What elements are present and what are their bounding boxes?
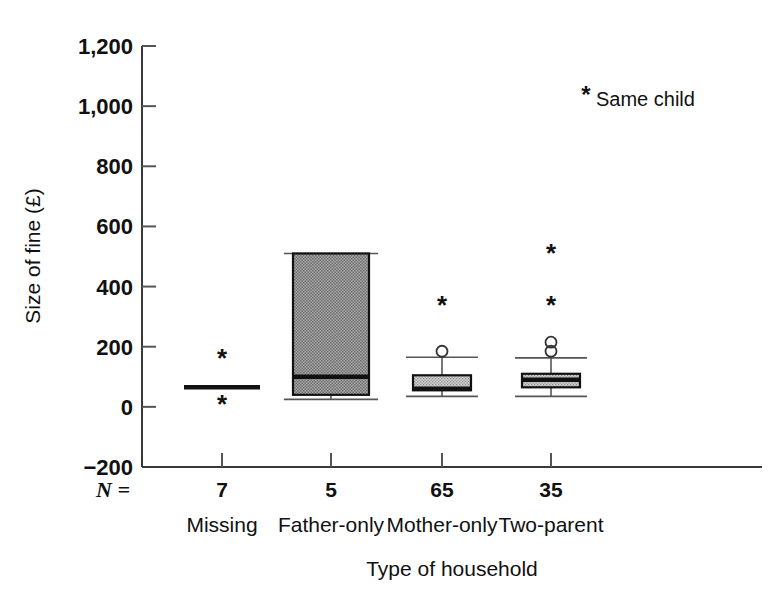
n-value-label: 7 <box>216 478 228 501</box>
n-row-label: N = <box>95 477 130 502</box>
legend-label: Same child <box>596 88 695 110</box>
y-tick-label: 1,000 <box>78 94 133 119</box>
boxplot-figure: 1,2001,0008006004002000−200 ***** 7Missi… <box>0 0 769 610</box>
n-value-label: 35 <box>539 478 563 501</box>
box-rect <box>293 253 369 394</box>
y-tick-label: 1,200 <box>78 34 133 59</box>
x-category-label: Two-parent <box>498 513 603 536</box>
boxplot-canvas: 1,2001,0008006004002000−200 ***** 7Missi… <box>0 0 769 610</box>
y-tick-label: 200 <box>96 335 133 360</box>
outlier-star-marker: * <box>217 343 228 373</box>
y-tick-label: 800 <box>96 154 133 179</box>
outlier-star-marker: * <box>546 290 557 320</box>
y-tick-label: 600 <box>96 214 133 239</box>
outlier-star-marker: * <box>437 290 448 320</box>
y-axis-title: Size of fine (£) <box>21 188 44 323</box>
outlier-star-marker: * <box>217 389 228 419</box>
x-category-label: Missing <box>186 513 257 536</box>
outlier-star-marker: * <box>546 238 557 268</box>
box-plot-group <box>284 253 378 399</box>
x-axis-title: Type of household <box>366 557 538 580</box>
y-tick-label: 0 <box>121 395 133 420</box>
n-value-label: 65 <box>430 478 454 501</box>
x-category-label: Father-only <box>278 513 385 536</box>
y-tick-label: 400 <box>96 275 133 300</box>
n-value-label: 5 <box>325 478 337 501</box>
x-category-label: Mother-only <box>387 513 498 536</box>
legend-star-icon: * <box>581 81 591 108</box>
